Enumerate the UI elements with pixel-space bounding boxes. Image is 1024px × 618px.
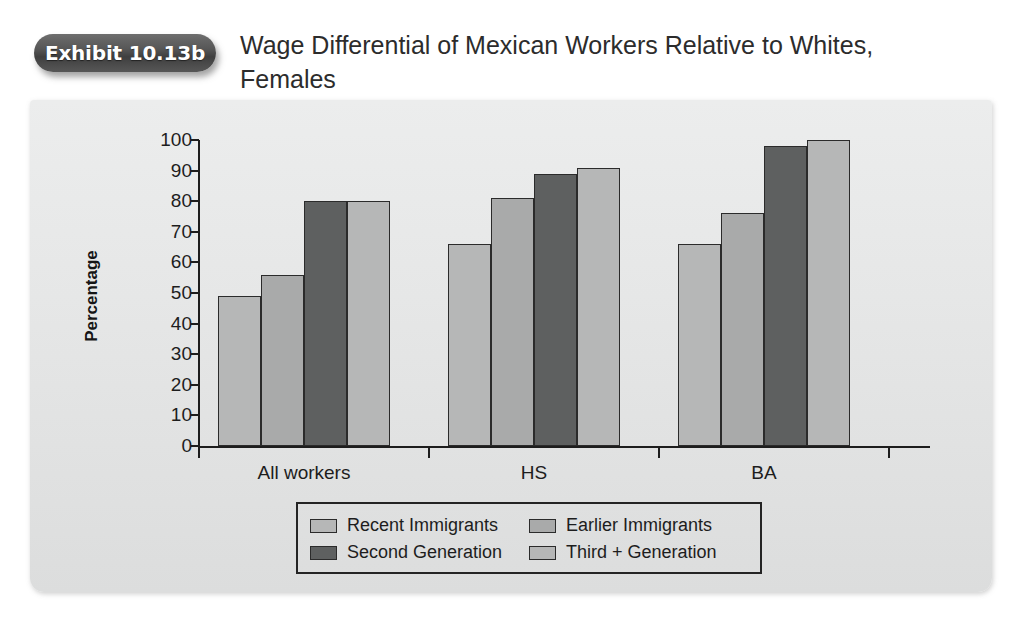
legend-item-earlier-immigrants: Earlier Immigrants (529, 515, 748, 536)
exhibit-badge: Exhibit 10.13b (34, 34, 216, 72)
x-axis-line (198, 446, 930, 448)
bar (347, 201, 390, 446)
legend-label: Earlier Immigrants (566, 515, 712, 536)
y-axis-tick (191, 200, 199, 202)
legend-swatch-icon (310, 519, 337, 533)
y-axis-line (198, 140, 200, 448)
y-axis-tick-label: 0 (146, 435, 192, 457)
bar (304, 201, 347, 446)
legend-label: Second Generation (347, 542, 502, 563)
x-axis-tick (888, 448, 890, 458)
y-axis-tick-label: 80 (146, 190, 192, 212)
exhibit-badge-label: Exhibit 10.13b (45, 41, 205, 65)
y-axis-tick-label: 60 (146, 251, 192, 273)
legend-swatch-icon (310, 546, 337, 560)
legend-swatch-icon (529, 519, 556, 533)
y-axis-tick (191, 445, 199, 447)
legend-label: Third + Generation (566, 542, 717, 563)
x-axis-group-label: HS (408, 462, 660, 484)
bar (261, 275, 304, 446)
bar (721, 213, 764, 446)
exhibit-header: Exhibit 10.13b Wage Differential of Mexi… (0, 0, 1024, 110)
y-axis-tick (191, 170, 199, 172)
y-axis-tick-label: 100 (146, 129, 192, 151)
exhibit-title: Wage Differential of Mexican Workers Rel… (240, 28, 940, 96)
y-axis-title: Percentage (82, 221, 102, 371)
legend-row: Second Generation Third + Generation (310, 539, 748, 566)
x-axis-tick (428, 448, 430, 458)
legend-item-recent-immigrants: Recent Immigrants (310, 515, 529, 536)
x-axis-group-label: BA (638, 462, 890, 484)
legend-swatch-icon (529, 546, 556, 560)
x-axis-tick (198, 448, 200, 458)
y-axis-tick (191, 261, 199, 263)
x-axis-group-label: All workers (178, 462, 430, 484)
y-axis-tick-label: 90 (146, 160, 192, 182)
bar (218, 296, 261, 446)
y-axis-tick-label: 10 (146, 404, 192, 426)
y-axis-tick (191, 414, 199, 416)
legend-row: Recent Immigrants Earlier Immigrants (310, 512, 748, 539)
y-axis-tick-label: 30 (146, 343, 192, 365)
y-axis-tick (191, 139, 199, 141)
y-axis-tick (191, 384, 199, 386)
bar (534, 174, 577, 446)
y-axis-tick-label: 50 (146, 282, 192, 304)
y-axis-tick (191, 231, 199, 233)
legend-item-third-generation: Third + Generation (529, 542, 748, 563)
y-axis-tick-label: 40 (146, 313, 192, 335)
y-axis-tick (191, 353, 199, 355)
x-axis-tick (658, 448, 660, 458)
y-axis-tick-label: 70 (146, 221, 192, 243)
bar (678, 244, 721, 446)
y-axis-tick (191, 323, 199, 325)
chart-legend: Recent Immigrants Earlier Immigrants Sec… (296, 502, 762, 574)
legend-label: Recent Immigrants (347, 515, 498, 536)
y-axis-tick (191, 292, 199, 294)
bar (807, 140, 850, 446)
bar-chart-plot-area: Percentage 0102030405060708090100 All wo… (30, 100, 992, 592)
legend-item-second-generation: Second Generation (310, 542, 529, 563)
bar (448, 244, 491, 446)
bar (577, 168, 620, 446)
y-axis-tick-label: 20 (146, 374, 192, 396)
bar (491, 198, 534, 446)
chart-panel: Percentage 0102030405060708090100 All wo… (30, 100, 992, 592)
bar (764, 146, 807, 446)
